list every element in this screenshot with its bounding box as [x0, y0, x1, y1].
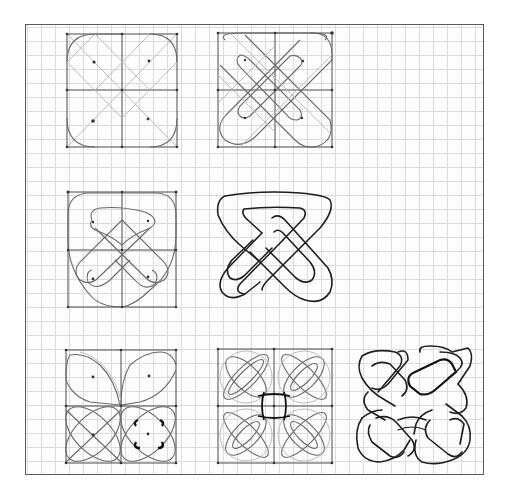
panel-step-2: [217, 31, 334, 148]
sketch-drawings: [0, 0, 508, 499]
panel-step-3: [67, 191, 178, 309]
panel-step-7: [357, 346, 472, 464]
panel-step-6: [217, 348, 334, 465]
panel-step-1: [66, 33, 179, 149]
panel-step-4: [218, 192, 332, 301]
panel-step-5: [56, 349, 185, 471]
